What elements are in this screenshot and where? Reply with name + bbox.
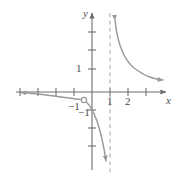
hole-open-circle xyxy=(81,97,86,102)
x-tick-label-2: 2 xyxy=(125,96,131,107)
y-tick-label-1: 1 xyxy=(76,63,82,74)
y-tick-label-neg-1: −1 xyxy=(78,107,90,118)
x-tick-label-1: 1 xyxy=(107,96,113,107)
graph-canvas xyxy=(0,0,178,177)
curve-right-branch xyxy=(115,20,163,80)
x-axis-label: x xyxy=(166,95,171,106)
rational-function-figure: y x 1 1 2 −1 −1 xyxy=(0,0,178,177)
curve-left-branch xyxy=(21,93,84,100)
y-axis-label: y xyxy=(83,8,88,19)
